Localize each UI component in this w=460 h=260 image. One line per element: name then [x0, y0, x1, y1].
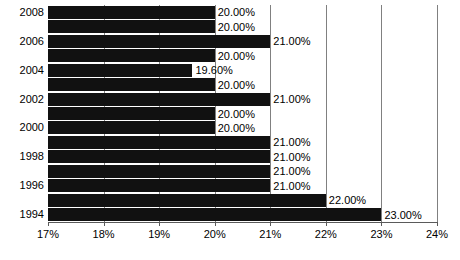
- bar-row: 20.00%: [48, 107, 437, 120]
- x-tick-mark: [215, 222, 216, 226]
- x-tick-label-20: 20%: [195, 228, 235, 240]
- gridline-24: [437, 5, 438, 222]
- bar-row: 23.00%: [48, 208, 437, 221]
- category-label-1996: 1996: [0, 180, 44, 191]
- x-axis-line: [48, 222, 438, 223]
- category-label-1998: 1998: [0, 151, 44, 162]
- x-tick-label-24: 24%: [417, 228, 457, 240]
- bar: [48, 20, 215, 33]
- x-tick-mark: [48, 222, 49, 226]
- bar-value-label: 20.00%: [215, 108, 255, 119]
- x-tick-mark: [437, 222, 438, 226]
- bar-value-label: 20.00%: [215, 7, 255, 18]
- x-tick-label-18: 18%: [84, 228, 124, 240]
- x-tick-label-22: 22%: [306, 228, 346, 240]
- bar: [48, 136, 270, 149]
- bar-row: 20.00%: [48, 6, 437, 19]
- bar-chart: 20.00%20.00%21.00%20.00%19.60%20.00%21.0…: [0, 0, 460, 260]
- x-tick-label-21: 21%: [250, 228, 290, 240]
- bar-row: 21.00%: [48, 150, 437, 163]
- bar-value-label: 23.00%: [381, 209, 421, 220]
- bar: [48, 107, 215, 120]
- bar-row: 21.00%: [48, 136, 437, 149]
- bar-value-label: 19.60%: [192, 65, 232, 76]
- bar: [48, 150, 270, 163]
- bar-row: 21.00%: [48, 93, 437, 106]
- x-tick-mark: [159, 222, 160, 226]
- bar-value-label: 21.00%: [270, 180, 310, 191]
- category-label-2002: 2002: [0, 94, 44, 105]
- bar: [48, 78, 215, 91]
- bar-row: 22.00%: [48, 194, 437, 207]
- bar-value-label: 21.00%: [270, 36, 310, 47]
- bar: [48, 179, 270, 192]
- category-label-2004: 2004: [0, 65, 44, 76]
- bar: [48, 93, 270, 106]
- bar-value-label: 20.00%: [215, 122, 255, 133]
- x-tick-mark: [270, 222, 271, 226]
- bar: [48, 6, 215, 19]
- category-label-2008: 2008: [0, 7, 44, 18]
- bar: [48, 165, 270, 178]
- bar-row: 20.00%: [48, 78, 437, 91]
- bar-value-label: 21.00%: [270, 94, 310, 105]
- bar-value-label: 22.00%: [326, 195, 366, 206]
- bar-row: 19.60%: [48, 64, 437, 77]
- bar: [48, 49, 215, 62]
- bar-value-label: 21.00%: [270, 166, 310, 177]
- bar-row: 21.00%: [48, 179, 437, 192]
- x-tick-label-17: 17%: [28, 228, 68, 240]
- x-tick-label-23: 23%: [361, 228, 401, 240]
- plot-area: 20.00%20.00%21.00%20.00%19.60%20.00%21.0…: [48, 5, 437, 222]
- category-label-1994: 1994: [0, 209, 44, 220]
- bar-row: 20.00%: [48, 20, 437, 33]
- x-tick-mark: [381, 222, 382, 226]
- bar-value-label: 20.00%: [215, 79, 255, 90]
- bar-value-label: 20.00%: [215, 50, 255, 61]
- bar-row: 21.00%: [48, 35, 437, 48]
- bar-row: 20.00%: [48, 121, 437, 134]
- bar: [48, 194, 326, 207]
- bar: [48, 121, 215, 134]
- bar: [48, 35, 270, 48]
- category-label-2000: 2000: [0, 122, 44, 133]
- bar-row: 21.00%: [48, 165, 437, 178]
- x-tick-mark: [104, 222, 105, 226]
- x-tick-mark: [326, 222, 327, 226]
- bar-value-label: 20.00%: [215, 21, 255, 32]
- bar: [48, 64, 192, 77]
- bar-value-label: 21.00%: [270, 151, 310, 162]
- bar: [48, 208, 381, 221]
- x-tick-label-19: 19%: [139, 228, 179, 240]
- bar-row: 20.00%: [48, 49, 437, 62]
- bar-value-label: 21.00%: [270, 137, 310, 148]
- category-label-2006: 2006: [0, 36, 44, 47]
